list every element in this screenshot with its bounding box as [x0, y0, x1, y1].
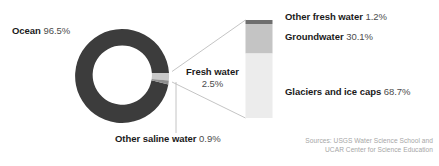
sources-line-2: UCAR Center for Science Education — [233, 145, 433, 154]
label-other-fresh-water-name: Other fresh water — [285, 11, 363, 22]
label-fresh-water-value: 2.5% — [186, 78, 239, 89]
label-groundwater: Groundwater 30.1% — [285, 31, 373, 42]
label-glaciers-and-ice-caps-value: 68.7% — [384, 86, 411, 97]
sources-note: Sources: USGS Water Science School and U… — [233, 136, 433, 154]
label-glaciers-and-ice-caps: Glaciers and ice caps 68.7% — [285, 86, 410, 97]
label-ocean-name: Ocean — [12, 25, 41, 36]
label-ocean-value: 96.5% — [43, 25, 70, 36]
label-other-saline-water-name: Other saline water — [115, 133, 196, 144]
label-fresh-water: Fresh water 2.5% — [186, 66, 239, 89]
stacked-column-chart — [246, 20, 273, 118]
leader-line-top — [172, 20, 246, 72]
label-glaciers-and-ice-caps-name: Glaciers and ice caps — [285, 86, 381, 97]
label-other-fresh-water: Other fresh water 1.2% — [285, 11, 387, 22]
label-other-saline-water-value: 0.9% — [199, 133, 220, 144]
label-other-saline-water: Other saline water 0.9% — [115, 133, 221, 144]
bar-segment-other-fresh-water[interactable] — [246, 20, 273, 24]
label-groundwater-value: 30.1% — [346, 31, 373, 42]
label-ocean: Ocean 96.5% — [12, 25, 70, 36]
label-fresh-water-name: Fresh water — [186, 66, 239, 77]
water-distribution-infographic: Ocean 96.5% Fresh water 2.5% Other salin… — [0, 0, 439, 166]
bar-segment-groundwater[interactable] — [246, 24, 273, 54]
bar-segment-glaciers-and-ice-caps[interactable] — [246, 54, 273, 119]
label-groundwater-name: Groundwater — [285, 31, 344, 42]
donut-chart — [75, 29, 169, 123]
label-other-fresh-water-value: 1.2% — [365, 11, 386, 22]
sources-line-1: Sources: USGS Water Science School and — [233, 136, 433, 145]
